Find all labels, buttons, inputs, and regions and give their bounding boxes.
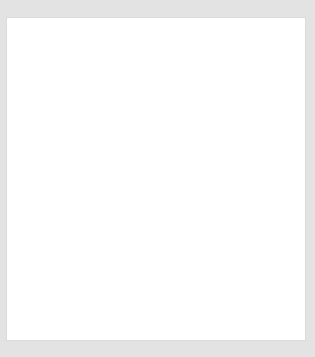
residual-plot-figure [15, 214, 297, 340]
page-root [0, 0, 315, 357]
scatterplot-card [7, 18, 305, 340]
scatterplot-figure [15, 40, 297, 212]
clipped-header [0, 0, 315, 15]
